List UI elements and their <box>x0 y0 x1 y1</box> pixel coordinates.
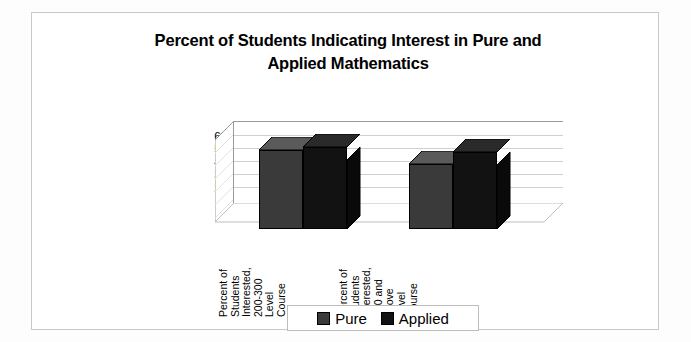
legend-swatch-pure <box>317 312 330 325</box>
bar-applied-200-300 <box>303 147 347 229</box>
bar-applied-400-above <box>453 152 497 229</box>
bar-pure-200-300 <box>259 150 303 229</box>
chart-title: Percent of Students Indicating Interest … <box>92 29 604 75</box>
legend-swatch-applied <box>381 312 394 325</box>
chart-legend: Pure Applied <box>287 305 479 331</box>
bar-front-face <box>303 147 347 229</box>
bar-front-face <box>409 164 453 229</box>
cat1-line-1: Percent of <box>218 267 230 317</box>
bar-side-face <box>497 152 510 229</box>
legend-item-pure[interactable]: Pure <box>317 311 367 326</box>
gridline-50 <box>234 135 563 136</box>
bar-front-face <box>453 152 497 229</box>
bar-pure-400-above <box>409 164 453 229</box>
bar-top-face <box>409 151 453 165</box>
legend-label-pure: Pure <box>335 311 367 326</box>
bar-top-face <box>303 134 347 148</box>
bar-top-face <box>453 139 497 153</box>
bar-side-face <box>347 147 360 229</box>
bar-top-face <box>259 137 303 151</box>
legend-item-applied[interactable]: Applied <box>381 311 449 326</box>
chart-frame: Percent of Students Indicating Interest … <box>31 12 659 330</box>
chart-title-line-1: Percent of Students Indicating Interest … <box>92 29 604 52</box>
chart-title-line-2: Applied Mathematics <box>92 52 604 75</box>
plot-area: 60 50 40 30 20 10 0 <box>197 111 587 229</box>
cat1-line-6: Course <box>276 267 288 317</box>
bar-front-face <box>259 150 303 229</box>
legend-label-applied: Applied <box>399 311 449 326</box>
